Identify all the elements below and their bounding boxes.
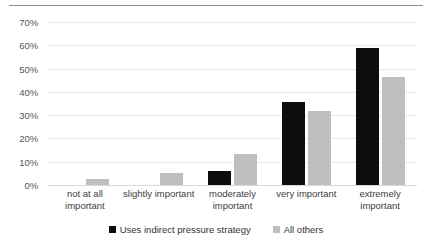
- bar[interactable]: [208, 171, 231, 185]
- y-axis-tick-label: 10%: [19, 156, 38, 167]
- bar-group: [48, 22, 122, 185]
- y-axis-tick-label: 0%: [24, 180, 38, 191]
- legend-item-label: Uses indirect pressure strategy: [120, 224, 251, 235]
- bar-group: [196, 22, 270, 185]
- bar[interactable]: [86, 179, 109, 185]
- bar-group: [269, 22, 343, 185]
- chart-legend: Uses indirect pressure strategyAll other…: [0, 224, 432, 235]
- bar[interactable]: [160, 173, 183, 185]
- y-axis-tick-label: 70%: [19, 17, 38, 28]
- bar-group-bars: [196, 22, 270, 185]
- legend-item[interactable]: All others: [273, 224, 324, 235]
- bar[interactable]: [382, 77, 405, 185]
- top-divider-rule: [9, 5, 423, 6]
- bar[interactable]: [356, 48, 379, 185]
- bar-groups: [48, 22, 417, 185]
- legend-item[interactable]: Uses indirect pressure strategy: [109, 224, 251, 235]
- y-axis-tick-label: 30%: [19, 110, 38, 121]
- x-axis-category-label: not at all important: [48, 188, 122, 222]
- bar[interactable]: [308, 111, 331, 186]
- legend-swatch-black: [109, 226, 116, 233]
- legend-item-label: All others: [284, 224, 324, 235]
- bar-group-bars: [343, 22, 417, 185]
- y-axis-tick-label: 20%: [19, 133, 38, 144]
- legend-swatch-gray: [273, 226, 280, 233]
- x-axis-category-label: slightly important: [122, 188, 196, 222]
- y-axis-tick-label: 60%: [19, 40, 38, 51]
- bar-chart: 70%60%50%40%30%20%10%0% not at all impor…: [0, 0, 432, 250]
- x-axis-category-label: moderately important: [196, 188, 270, 222]
- bar[interactable]: [234, 154, 257, 185]
- bar-group: [343, 22, 417, 185]
- gridline: [48, 185, 417, 186]
- y-axis-tick-label: 50%: [19, 63, 38, 74]
- x-axis: not at all importantslightly importantmo…: [48, 188, 417, 222]
- y-axis: 70%60%50%40%30%20%10%0%: [0, 22, 44, 185]
- bar-group-bars: [122, 22, 196, 185]
- bar-group-bars: [48, 22, 122, 185]
- bar-group: [122, 22, 196, 185]
- bar-group-bars: [269, 22, 343, 185]
- y-axis-tick-label: 40%: [19, 86, 38, 97]
- bar[interactable]: [282, 102, 305, 185]
- x-axis-category-label: extremely important: [343, 188, 417, 222]
- x-axis-category-label: very important: [269, 188, 343, 222]
